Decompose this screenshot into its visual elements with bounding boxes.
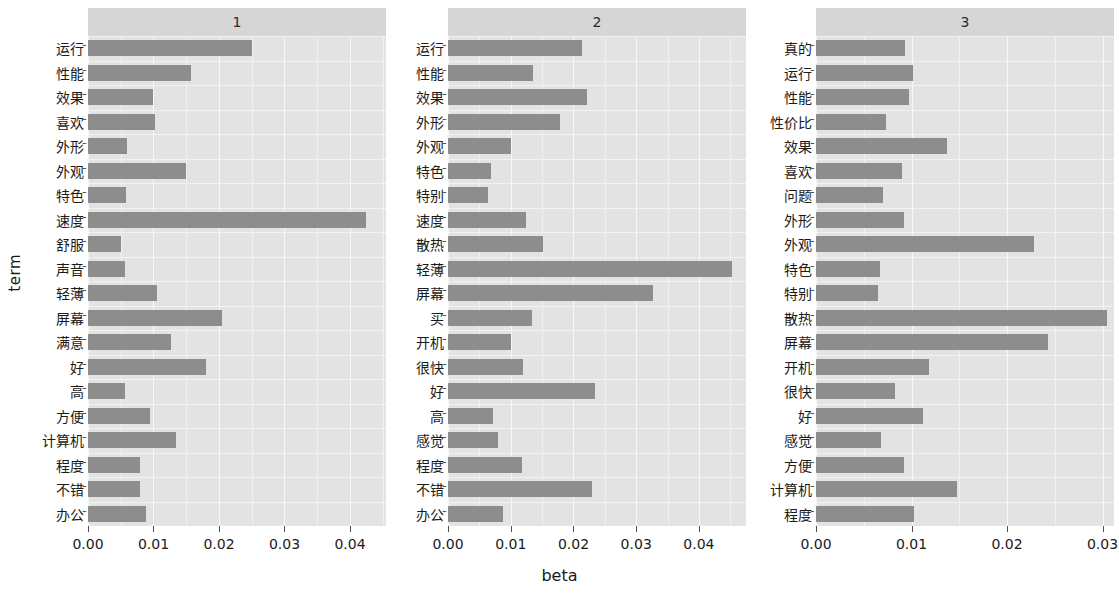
y-axis-tick-mark: ‐ xyxy=(442,258,447,273)
bar xyxy=(816,114,886,130)
gridline-horizontal xyxy=(88,159,386,160)
gridline-vertical-major xyxy=(816,36,817,526)
x-axis-tick-mark xyxy=(1103,526,1104,532)
bar-row xyxy=(448,114,746,130)
bar-row xyxy=(88,359,386,375)
gridline-horizontal xyxy=(448,330,746,331)
gridline-vertical-minor xyxy=(542,36,543,526)
x-axis-tick-label: 0.04 xyxy=(683,536,714,552)
gridline-horizontal xyxy=(88,257,386,258)
plot-area-2 xyxy=(448,36,746,526)
gridline-vertical-major xyxy=(153,36,154,526)
bar-row xyxy=(816,89,1114,105)
bar xyxy=(816,359,929,375)
bar-row xyxy=(448,187,746,203)
bar xyxy=(816,408,923,424)
gridline-horizontal xyxy=(816,404,1114,405)
facet-strip-2: 2 xyxy=(448,8,746,36)
y-axis-tick-label: 计算机 xyxy=(770,479,812,499)
bar-row xyxy=(816,236,1114,252)
bar xyxy=(88,236,121,252)
y-axis-tick-label: 声音 xyxy=(56,259,84,279)
y-axis-tick-mark: ‐ xyxy=(82,37,87,52)
x-axis-tick-label: 0.03 xyxy=(269,536,300,552)
bar-row xyxy=(88,89,386,105)
gridline-horizontal xyxy=(448,428,746,429)
gridline-horizontal xyxy=(88,428,386,429)
gridline-horizontal xyxy=(88,355,386,356)
y-axis-tick-label: 办公 xyxy=(56,504,84,524)
facet-strip-1: 1 xyxy=(88,8,386,36)
gridline-horizontal xyxy=(448,183,746,184)
gridline-vertical-major xyxy=(219,36,220,526)
y-axis-tick-label: 性能 xyxy=(56,63,84,83)
bar xyxy=(88,187,126,203)
y-axis-tick-label: 屏幕 xyxy=(56,308,84,328)
bar-row xyxy=(816,383,1114,399)
bar-row xyxy=(88,334,386,350)
gridline-horizontal xyxy=(448,306,746,307)
gridline-horizontal xyxy=(88,36,386,37)
x-axis-tick-mark xyxy=(284,526,285,532)
bar xyxy=(448,236,543,252)
y-axis-tick-label: 屏幕 xyxy=(784,332,812,352)
y-axis-tick-label: 性能 xyxy=(784,87,812,107)
gridline-vertical-minor xyxy=(730,36,731,526)
gridline-vertical-major xyxy=(912,36,913,526)
y-axis-tick-mark: ‐ xyxy=(442,282,447,297)
gridline-horizontal xyxy=(448,110,746,111)
gridline-vertical-major xyxy=(284,36,285,526)
y-axis-tick-label: 开机 xyxy=(784,357,812,377)
plot-area-3 xyxy=(816,36,1114,526)
gridline-horizontal xyxy=(816,355,1114,356)
gridline-vertical-minor xyxy=(479,36,480,526)
bar xyxy=(816,285,878,301)
y-axis-tick-mark: ‐ xyxy=(82,454,87,469)
bar xyxy=(88,163,186,179)
bar xyxy=(88,40,252,56)
bar xyxy=(816,310,1107,326)
bar-row xyxy=(816,457,1114,473)
y-axis-tick-mark: ‐ xyxy=(810,478,815,493)
bar xyxy=(448,408,493,424)
x-axis-tick-mark xyxy=(448,526,449,532)
bar-row xyxy=(448,138,746,154)
bar xyxy=(88,138,127,154)
y-axis-tick-mark: ‐ xyxy=(810,356,815,371)
y-axis-tick-mark: ‐ xyxy=(82,356,87,371)
gridline-horizontal xyxy=(816,257,1114,258)
gridline-horizontal xyxy=(816,232,1114,233)
bar-row xyxy=(448,163,746,179)
bar xyxy=(816,65,913,81)
bar xyxy=(88,481,140,497)
y-axis-tick-mark: ‐ xyxy=(810,282,815,297)
gridline-horizontal xyxy=(816,379,1114,380)
bar-row xyxy=(816,65,1114,81)
y-axis-tick-mark: ‐ xyxy=(82,282,87,297)
y-axis-tick-mark: ‐ xyxy=(442,503,447,518)
bar-row xyxy=(816,310,1114,326)
gridline-vertical-minor xyxy=(605,36,606,526)
y-axis-tick-label: 效果 xyxy=(56,87,84,107)
bar-row xyxy=(816,40,1114,56)
gridline-horizontal xyxy=(448,379,746,380)
y-axis-tick-mark: ‐ xyxy=(82,209,87,224)
gridline-vertical-minor xyxy=(1055,36,1056,526)
bar xyxy=(88,114,155,130)
y-axis-tick-mark: ‐ xyxy=(442,233,447,248)
bar xyxy=(448,432,498,448)
bar-row xyxy=(816,408,1114,424)
bar-row xyxy=(88,114,386,130)
bar xyxy=(448,89,587,105)
bar xyxy=(88,383,125,399)
gridline-horizontal xyxy=(448,85,746,86)
y-axis-tick-label: 散热 xyxy=(416,234,444,254)
y-axis-tick-label: 程度 xyxy=(56,455,84,475)
y-axis-tick-mark: ‐ xyxy=(810,454,815,469)
y-axis-tick-mark: ‐ xyxy=(442,37,447,52)
gridline-vertical-major xyxy=(448,36,449,526)
bar xyxy=(816,212,904,228)
bar-row xyxy=(816,481,1114,497)
bar-row xyxy=(816,506,1114,522)
y-axis-tick-mark: ‐ xyxy=(442,86,447,101)
